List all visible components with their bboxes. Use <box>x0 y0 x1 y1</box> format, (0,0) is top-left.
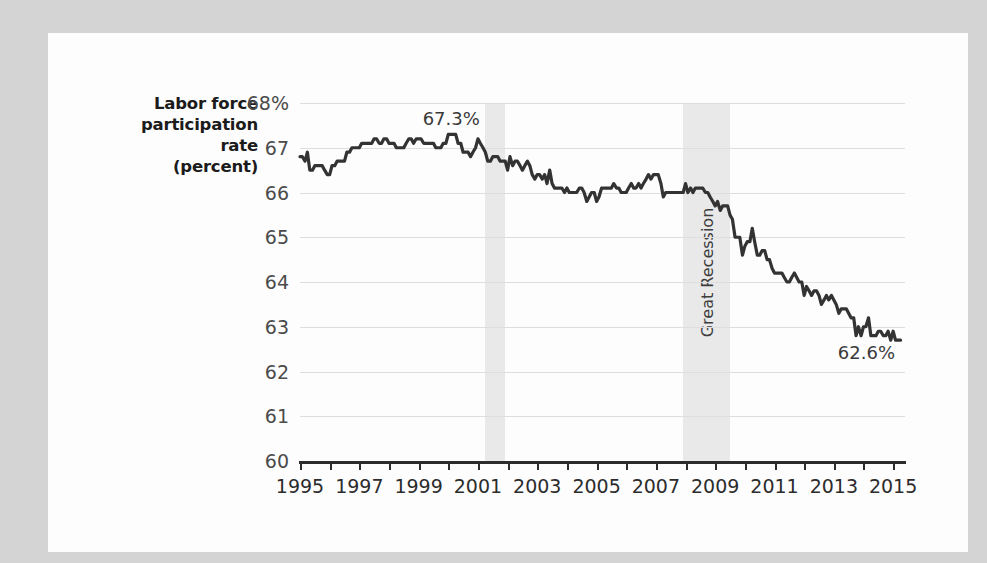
x-tick-label: 1999 <box>394 475 442 497</box>
y-tick-label: 68% <box>247 92 289 114</box>
x-tick-mark <box>656 461 658 470</box>
x-tick-mark <box>537 461 539 470</box>
y-axis-title-line-2: participation <box>68 114 258 135</box>
y-axis-title-line-3: rate <box>68 135 258 156</box>
x-tick-mark <box>419 461 421 470</box>
x-tick-mark-minor <box>686 461 688 470</box>
y-tick-label: 65 <box>265 226 289 248</box>
x-tick-label: 1997 <box>335 475 383 497</box>
x-tick-mark-minor <box>804 461 806 470</box>
y-axis-title-line-4: (percent) <box>68 156 258 177</box>
x-tick-label: 2011 <box>750 475 798 497</box>
x-tick-mark <box>775 461 777 470</box>
peak-value-label: 67.3% <box>423 108 480 129</box>
x-tick-mark-minor <box>626 461 628 470</box>
x-tick-mark <box>893 461 895 470</box>
x-tick-mark-minor <box>863 461 865 470</box>
labor-force-participation-chart: Labor force participation rate (percent)… <box>48 33 968 552</box>
x-tick-mark-minor <box>330 461 332 470</box>
x-tick-label: 2007 <box>632 475 680 497</box>
x-tick-mark-minor <box>745 461 747 470</box>
x-tick-mark-minor <box>508 461 510 470</box>
x-tick-label: 2005 <box>572 475 620 497</box>
y-tick-label: 62 <box>265 361 289 383</box>
y-tick-label: 64 <box>265 271 289 293</box>
x-tick-mark <box>715 461 717 470</box>
x-tick-mark-minor <box>567 461 569 470</box>
x-tick-label: 2001 <box>454 475 502 497</box>
x-tick-mark-minor <box>448 461 450 470</box>
figure-panel: Labor force participation rate (percent)… <box>48 33 968 552</box>
y-tick-label: 67 <box>265 137 289 159</box>
x-tick-mark <box>300 461 302 470</box>
y-axis-title-line-1: Labor force <box>68 93 258 114</box>
x-tick-label: 1995 <box>276 475 324 497</box>
y-tick-label: 66 <box>265 182 289 204</box>
x-tick-mark <box>834 461 836 470</box>
x-tick-mark-minor <box>389 461 391 470</box>
y-tick-label: 63 <box>265 316 289 338</box>
y-axis-title: Labor force participation rate (percent) <box>68 93 258 177</box>
x-tick-label: 2013 <box>810 475 858 497</box>
x-tick-mark <box>478 461 480 470</box>
y-tick-label: 61 <box>265 405 289 427</box>
x-tick-mark <box>597 461 599 470</box>
x-tick-label: 2015 <box>869 475 917 497</box>
x-tick-label: 2009 <box>691 475 739 497</box>
series-line-layer <box>300 103 905 461</box>
series-line <box>300 134 901 340</box>
plot-area: Great Recession 68%6766656463626160 67.3… <box>300 103 905 461</box>
x-tick-label: 2003 <box>513 475 561 497</box>
latest-value-label: 62.6% <box>838 342 895 363</box>
y-tick-label: 60 <box>265 450 289 472</box>
x-tick-mark <box>359 461 361 470</box>
